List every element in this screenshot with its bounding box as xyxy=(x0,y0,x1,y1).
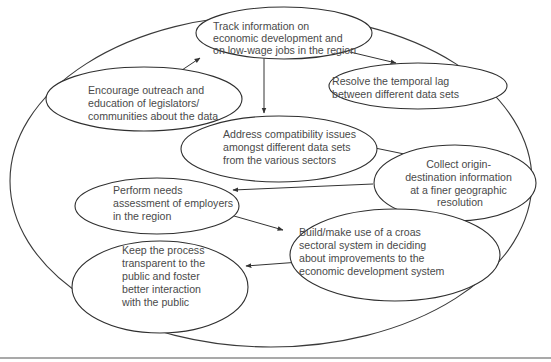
node-build-line: sectoral system in deciding xyxy=(299,239,426,251)
edge-perform-build xyxy=(234,216,283,230)
svg-text:Build/make use of a croas: Build/make use of a croas sectoral syste… xyxy=(299,226,445,277)
node-keep-line: public and foster xyxy=(122,270,200,282)
node-address-line: Address compatibility issues xyxy=(223,128,356,140)
node-track-line: Track information on xyxy=(213,20,309,32)
node-collect-line: Collect origin- xyxy=(426,158,491,170)
node-keep-line: better interaction xyxy=(122,283,201,295)
node-track: Track information on economic developmen… xyxy=(196,7,372,59)
node-build: Build/make use of a croas sectoral syste… xyxy=(290,209,500,301)
edge-track-resolve xyxy=(350,52,396,63)
node-perform-line: assessment of employers xyxy=(113,197,233,209)
node-encourage: Encourage outreach and education of legi… xyxy=(46,67,242,131)
edge-collect-perform xyxy=(233,184,373,190)
node-build-line: Build/make use of a croas xyxy=(299,226,421,238)
node-perform-line: in the region xyxy=(113,210,171,222)
node-perform-line: Perform needs xyxy=(113,184,182,196)
node-encourage-line: education of legislators/ xyxy=(88,97,199,109)
node-address-line: from the various sectors xyxy=(223,154,336,166)
node-track-line: on low-wage jobs in the region xyxy=(213,44,356,56)
node-track-line: economic development and xyxy=(213,32,343,44)
node-resolve: Resolve the temporal lag between differe… xyxy=(329,63,507,109)
process-diagram: Track information on economic developmen… xyxy=(0,0,551,362)
node-collect-line: destination information xyxy=(405,171,512,183)
svg-text:Encourage outreach and e: Encourage outreach and education of legi… xyxy=(88,84,218,122)
node-build-line: economic development system xyxy=(299,265,445,277)
node-collect-line: resolution xyxy=(437,196,483,208)
node-resolve-line: between different data sets xyxy=(332,88,459,100)
svg-text:Resolve the temporal lag: Resolve the temporal lag between differe… xyxy=(332,75,459,100)
node-keep-line: transparent to the xyxy=(122,257,205,269)
node-keep-line: Keep the process xyxy=(122,244,204,256)
node-perform: Perform needs assessment of employers in… xyxy=(75,178,239,234)
node-keep: Keep the process transparent to the publ… xyxy=(72,241,248,333)
node-address: Address compatibility issues amongst dif… xyxy=(181,116,377,182)
node-resolve-line: Resolve the temporal lag xyxy=(332,75,449,87)
node-build-line: about improvements to the xyxy=(299,252,425,264)
node-address-line: amongst different data sets xyxy=(223,141,351,153)
node-encourage-line: Encourage outreach and xyxy=(88,84,204,96)
node-collect-line: at a finer geographic xyxy=(410,184,507,196)
node-keep-line: with the public xyxy=(121,296,190,308)
node-encourage-line: communities about the data xyxy=(88,110,218,122)
